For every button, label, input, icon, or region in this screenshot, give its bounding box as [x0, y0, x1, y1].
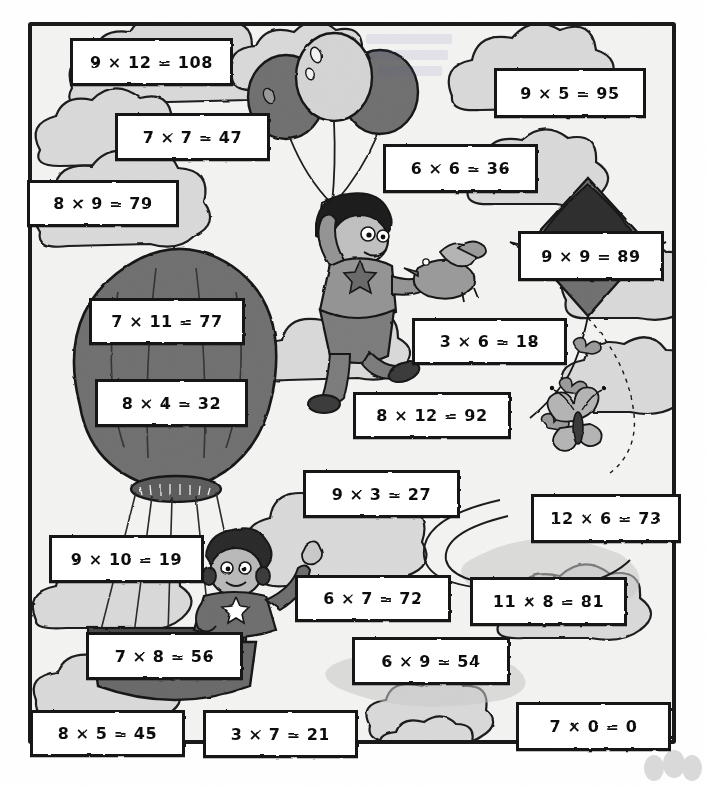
problem-box-p4[interactable]: 6 × 6 = 36	[383, 144, 538, 193]
problem-box-p9[interactable]: 8 × 4 = 32	[95, 379, 248, 427]
problem-text: 9 × 12 = 108	[90, 53, 213, 72]
problem-text: 6 × 9 = 54	[381, 652, 481, 671]
worksheet-scene: 9 × 12 = 1089 × 5 = 957 × 7 = 476 × 6 = …	[0, 0, 707, 787]
problem-box-p7[interactable]: 7 × 11 = 77	[89, 298, 245, 345]
problem-box-p17[interactable]: 6 × 9 = 54	[352, 637, 510, 685]
problem-box-p18[interactable]: 8 × 5 = 45	[30, 710, 185, 757]
problem-text: 9 × 3 = 27	[332, 485, 432, 504]
problem-text: 7 × 8 = 56	[115, 647, 215, 666]
problem-text: 3 × 6 = 18	[440, 332, 540, 351]
problem-text: 11 × 8 = 81	[493, 592, 604, 611]
problem-text: 9 × 5 = 95	[520, 84, 620, 103]
problem-box-p8[interactable]: 3 × 6 = 18	[412, 318, 567, 365]
problem-text: 8 × 12 = 92	[376, 406, 487, 425]
problem-text: 6 × 6 = 36	[411, 159, 511, 178]
problem-text: 7 × 0 = 0	[550, 717, 638, 736]
problem-text: 6 × 7 = 72	[323, 589, 423, 608]
problem-text: 8 × 4 = 32	[122, 394, 222, 413]
problem-box-p1[interactable]: 9 × 12 = 108	[70, 38, 233, 86]
problem-box-p11[interactable]: 9 × 3 = 27	[303, 470, 460, 518]
problem-box-p13[interactable]: 9 × 10 = 19	[49, 535, 204, 583]
problem-text: 9 × 10 = 19	[71, 550, 182, 569]
problem-text: 3 × 7 = 21	[231, 725, 331, 744]
problem-text: 9 × 9 = 89	[541, 247, 641, 266]
problem-box-p12[interactable]: 12 × 6 = 73	[531, 494, 681, 543]
problem-box-p14[interactable]: 6 × 7 = 72	[295, 575, 451, 622]
problem-text: 7 × 7 = 47	[143, 128, 243, 147]
problem-text: 12 × 6 = 73	[550, 509, 661, 528]
problem-text: 7 × 11 = 77	[111, 312, 222, 331]
problem-box-p19[interactable]: 3 × 7 = 21	[203, 710, 358, 758]
problem-text: 8 × 9 = 79	[53, 194, 153, 213]
problem-box-p6[interactable]: 9 × 9 = 89	[518, 231, 664, 281]
problem-box-p3[interactable]: 7 × 7 = 47	[115, 113, 270, 161]
problem-text: 8 × 5 = 45	[58, 724, 158, 743]
problem-box-p16[interactable]: 7 × 8 = 56	[86, 632, 243, 680]
problem-box-p20[interactable]: 7 × 0 = 0	[516, 702, 671, 751]
problem-box-p2[interactable]: 9 × 5 = 95	[494, 68, 646, 118]
problem-box-p15[interactable]: 11 × 8 = 81	[470, 577, 627, 626]
problem-box-p5[interactable]: 8 × 9 = 79	[27, 180, 179, 227]
problem-box-p10[interactable]: 8 × 12 = 92	[353, 392, 511, 439]
